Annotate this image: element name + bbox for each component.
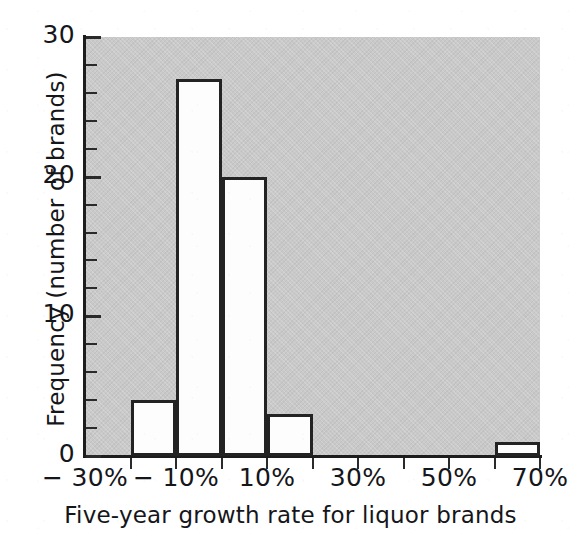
histogram-bar xyxy=(267,414,313,456)
y-axis-minor-tick xyxy=(86,64,97,66)
y-axis-minor-tick xyxy=(86,259,97,261)
histogram-figure: 0102030 − 30%− 10%10%30%50%70% Five-year… xyxy=(0,0,581,544)
y-axis-minor-tick xyxy=(86,120,97,122)
histogram-bar xyxy=(131,400,177,456)
y-axis-line xyxy=(83,35,86,458)
y-axis-minor-tick xyxy=(86,232,97,234)
y-axis-minor-tick xyxy=(86,427,97,429)
plot-area-background xyxy=(85,37,540,456)
y-axis-minor-tick xyxy=(86,204,97,206)
histogram-bar xyxy=(222,177,268,456)
y-axis-major-tick xyxy=(86,36,101,39)
y-axis-minor-tick xyxy=(86,287,97,289)
x-tick-label: 70% xyxy=(480,463,581,492)
y-axis-minor-tick xyxy=(86,92,97,94)
y-axis-major-tick xyxy=(86,176,101,179)
y-axis-minor-tick xyxy=(86,399,97,401)
histogram-bar xyxy=(176,79,222,456)
y-axis-minor-tick xyxy=(86,343,97,345)
y-axis-minor-tick xyxy=(86,148,97,150)
y-axis-minor-tick xyxy=(86,371,97,373)
y-axis-major-tick xyxy=(86,315,101,318)
x-axis-title: Five-year growth rate for liquor brands xyxy=(0,502,581,528)
histogram-bar xyxy=(495,442,541,456)
y-axis-title: Frequency (number of brands) xyxy=(43,39,69,459)
y-axis-major-tick xyxy=(86,455,101,458)
